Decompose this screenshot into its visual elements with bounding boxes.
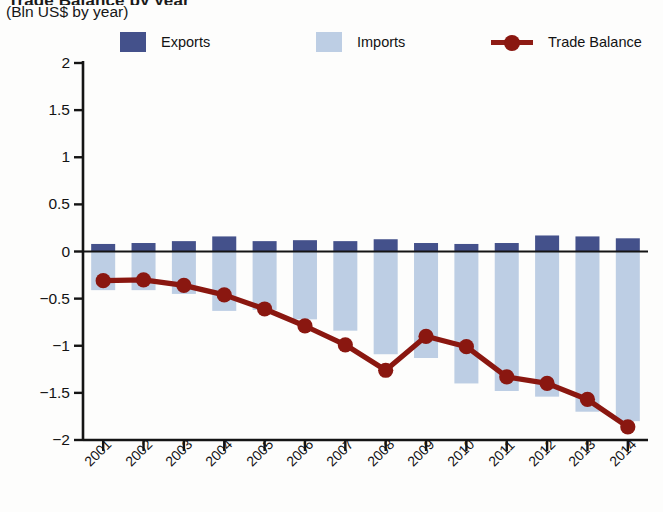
- y-tick-label: −2: [18, 431, 70, 449]
- exports-bar: [212, 236, 236, 251]
- exports-bar: [172, 241, 196, 251]
- chart-page: Trade Balance by year (Bln US$ by year) …: [0, 0, 663, 512]
- exports-bar: [575, 236, 599, 251]
- trade-balance-point: [499, 369, 514, 384]
- trade-balance-point: [418, 329, 433, 344]
- imports-bar: [454, 252, 478, 384]
- chart-plot-area: [0, 0, 663, 512]
- trade-balance-point: [297, 318, 312, 333]
- y-tick-label: 2: [18, 54, 70, 72]
- axis-group: [74, 61, 648, 451]
- exports-bar: [454, 244, 478, 252]
- y-tick-label: 0.5: [18, 195, 70, 213]
- exports-bar: [293, 240, 317, 251]
- imports-bar: [575, 252, 599, 412]
- trade-balance-point: [136, 272, 151, 287]
- exports-bar: [333, 241, 357, 251]
- y-tick-label: −1.5: [18, 384, 70, 402]
- trade-balance-point: [217, 287, 232, 302]
- trade-balance-point: [257, 301, 272, 316]
- exports-bar: [91, 244, 115, 252]
- y-tick-label: 1.5: [18, 101, 70, 119]
- imports-bar: [253, 252, 277, 310]
- y-tick-label: −0.5: [18, 290, 70, 308]
- trade-balance-point: [96, 273, 111, 288]
- trade-balance-point: [176, 278, 191, 293]
- imports-bar: [333, 252, 357, 331]
- exports-bar: [374, 239, 398, 251]
- y-tick-label: 1: [18, 148, 70, 166]
- y-tick-label: −1: [18, 337, 70, 355]
- trade-balance-point: [338, 337, 353, 352]
- trade-balance-point: [580, 392, 595, 407]
- exports-bar: [535, 235, 559, 251]
- imports-bar: [616, 252, 640, 422]
- exports-bar: [414, 243, 438, 251]
- exports-bar: [616, 238, 640, 251]
- trade-balance-point: [378, 363, 393, 378]
- imports-bar: [293, 252, 317, 320]
- trade-balance-point: [459, 339, 474, 354]
- imports-bar: [374, 252, 398, 355]
- trade-balance-point: [620, 419, 635, 434]
- y-tick-label: 0: [18, 243, 70, 261]
- exports-bar: [253, 241, 277, 251]
- trade-balance-point: [540, 376, 555, 391]
- imports-bars-group: [91, 252, 640, 422]
- imports-bar: [535, 252, 559, 397]
- exports-bars-group: [91, 235, 640, 251]
- exports-bar: [132, 243, 156, 251]
- exports-bar: [495, 243, 519, 251]
